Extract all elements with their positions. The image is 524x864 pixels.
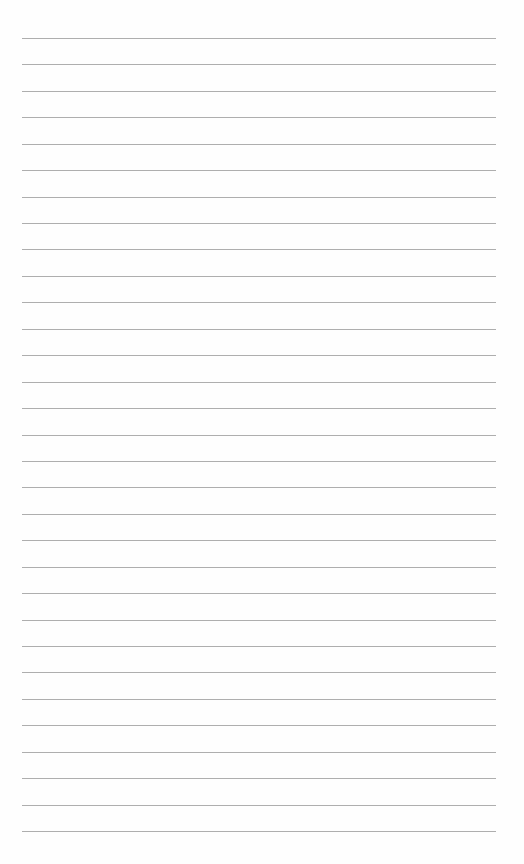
ruled-line [22,567,496,568]
ruled-line [22,329,496,330]
ruled-line [22,487,496,488]
ruled-line [22,197,496,198]
ruled-line [22,831,496,832]
ruled-line [22,514,496,515]
ruled-line [22,223,496,224]
ruled-line [22,435,496,436]
ruled-line [22,355,496,356]
lined-paper-page [0,0,524,864]
ruled-line [22,276,496,277]
ruled-line [22,144,496,145]
ruled-line [22,91,496,92]
ruled-line [22,540,496,541]
ruled-line [22,725,496,726]
ruled-line [22,117,496,118]
ruled-line [22,672,496,673]
ruled-line [22,382,496,383]
ruled-line [22,64,496,65]
ruled-line [22,408,496,409]
ruled-line [22,170,496,171]
ruled-line [22,646,496,647]
ruled-line [22,302,496,303]
ruled-line [22,620,496,621]
ruled-line [22,461,496,462]
ruled-line [22,752,496,753]
ruled-line [22,249,496,250]
ruled-line [22,38,496,39]
ruled-line [22,593,496,594]
ruled-line [22,778,496,779]
ruled-line [22,699,496,700]
ruled-line [22,805,496,806]
